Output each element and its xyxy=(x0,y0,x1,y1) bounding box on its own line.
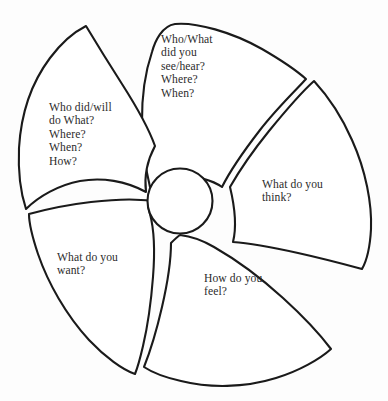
petal-label-want: What do you want? xyxy=(57,251,118,278)
petal-label-thought: What do you think? xyxy=(262,178,323,205)
petal-label-action: Who did/will do What? Where? When? How? xyxy=(49,101,112,168)
petal-label-observation: Who/What did you see/hear? Where? When? xyxy=(161,33,213,100)
communication-wheel-diagram: Who/What did you see/hear? Where? When? … xyxy=(0,0,388,401)
petal-want[interactable] xyxy=(29,200,154,374)
petal-label-feeling: How do you feel? xyxy=(204,272,262,299)
wheel-hub[interactable] xyxy=(148,169,213,234)
petal-feeling[interactable] xyxy=(144,235,331,386)
